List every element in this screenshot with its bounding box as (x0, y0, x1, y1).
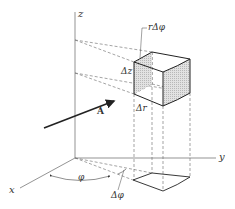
delta-phi-label: Δφ (111, 191, 124, 200)
z-axis-label: z (78, 9, 83, 19)
cylindrical-volume-element-diagram (0, 0, 235, 209)
x-axis-label: x (9, 185, 15, 195)
axes (20, 12, 216, 188)
phi-label: φ (78, 173, 84, 182)
dphi-leader (118, 170, 124, 190)
y-axis-label: y (219, 152, 225, 162)
x-axis (20, 158, 75, 188)
r-dphi-leader (140, 28, 147, 58)
delta-z-label: Δz (121, 67, 132, 76)
base-projection (133, 173, 190, 191)
r-delta-phi-label: rΔφ (148, 23, 165, 32)
vector-a-label: A (97, 107, 104, 116)
dphi-arc (118, 169, 126, 174)
shaded-inner-face (134, 52, 152, 94)
delta-r-label: Δr (136, 104, 147, 113)
projection-lines (75, 40, 190, 191)
